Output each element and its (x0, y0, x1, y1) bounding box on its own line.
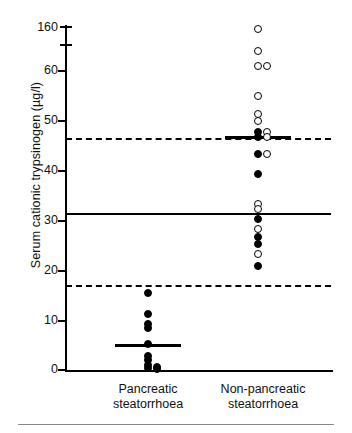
data-point-s0-9 (144, 364, 152, 372)
x-category-label-pancreatic-line1: Pancreatic (118, 382, 177, 396)
data-point-s0-10 (153, 365, 161, 373)
data-point-s1-12 (263, 150, 271, 158)
y-tick-label-10: 10 (44, 314, 58, 327)
data-point-s1-21 (254, 262, 262, 270)
x-category-label-non-pancreatic: Non-pancreatic steatorrhoea (198, 382, 328, 413)
y-axis-title: Serum cationic trypsinogen (µg/l) (29, 35, 43, 315)
data-point-s1-20 (254, 250, 262, 258)
y-tick-20 (58, 270, 65, 272)
data-point-s1-15 (254, 205, 262, 213)
data-point-s1-0 (254, 25, 262, 33)
x-category-label-non-pancreatic-line2: steatorrhoea (198, 397, 328, 412)
data-point-s1-17 (254, 225, 262, 233)
y-tick-50 (58, 120, 65, 122)
figure-bottom-rule (18, 424, 334, 425)
data-point-s0-0 (144, 289, 152, 297)
data-point-s1-2 (254, 62, 262, 70)
y-tick-label-20: 20 (44, 264, 58, 277)
data-point-s1-6 (254, 117, 262, 125)
axis-break-mark-top (60, 26, 72, 28)
data-point-s1-19 (254, 240, 262, 248)
y-tick-label-50: 50 (44, 114, 58, 127)
y-tick-60 (58, 70, 65, 72)
reference-line-solid-1 (66, 213, 331, 215)
data-point-s0-1 (144, 310, 152, 318)
y-tick-label-0: 0 (51, 363, 58, 376)
y-tick-30 (58, 220, 65, 222)
y-tick-label-160: 160 (37, 21, 58, 34)
x-category-label-pancreatic: Pancreatic steatorrhoea (83, 382, 213, 413)
y-axis-line-upper-segment (65, 25, 67, 45)
x-axis-line (65, 370, 333, 372)
y-axis-line (65, 25, 67, 372)
data-point-s1-4 (254, 92, 262, 100)
data-point-s1-11 (254, 150, 262, 158)
axis-break-mark-bottom (60, 44, 72, 46)
data-point-s1-3 (263, 62, 271, 70)
reference-line-dashed-0 (66, 138, 331, 140)
x-category-label-non-pancreatic-line1: Non-pancreatic (221, 382, 306, 396)
data-point-s1-1 (254, 47, 262, 55)
data-point-s0-3 (144, 324, 152, 332)
y-tick-10 (58, 320, 65, 322)
data-point-s1-13 (254, 170, 262, 178)
y-tick-40 (58, 170, 65, 172)
reference-line-dashed-2 (66, 285, 331, 287)
y-tick-0 (58, 369, 67, 371)
data-point-s1-9 (254, 133, 262, 141)
y-tick-label-40: 40 (44, 164, 58, 177)
y-tick-label-30: 30 (44, 214, 58, 227)
data-point-s0-4 (144, 340, 152, 348)
y-tick-label-60: 60 (44, 64, 58, 77)
chart-figure: Serum cationic trypsinogen (µg/l) 160 60… (0, 0, 352, 433)
data-point-s1-16 (254, 215, 262, 223)
x-category-label-pancreatic-line2: steatorrhoea (83, 397, 213, 412)
data-point-s1-10 (263, 133, 271, 141)
